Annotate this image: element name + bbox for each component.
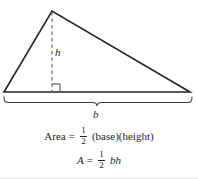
formula-symbolic-fraction-denominator: 2 [98, 161, 105, 170]
formula-area-equals: = [66, 131, 78, 142]
formula-area-symbolic: A = 1 2 bh [0, 150, 198, 170]
formula-area-fraction: 1 2 [80, 126, 87, 146]
formula-area-fraction-numerator: 1 [80, 126, 87, 135]
formula-symbolic-fraction: 1 2 [98, 150, 105, 170]
formula-area-fraction-denominator: 2 [80, 137, 87, 146]
base-brace-icon [4, 97, 192, 106]
triangle-area-figure: h b Area = 1 2 (base)(height) A = 1 2 bh [0, 0, 198, 179]
right-angle-marker-icon [52, 84, 60, 92]
formula-symbolic-equals: = [84, 155, 96, 166]
triangle-outline [4, 11, 190, 92]
formula-area-lhs: Area [44, 131, 65, 142]
formula-area-word-row: Area = 1 2 (base)(height) [44, 126, 153, 146]
formula-area-symbolic-row: A = 1 2 bh [77, 150, 121, 170]
triangle-path [4, 11, 190, 92]
base-label: b [93, 109, 99, 120]
formula-symbolic-rhs: bh [110, 155, 121, 166]
formula-symbolic-lhs: A [77, 155, 84, 166]
formula-symbolic-fraction-numerator: 1 [98, 150, 105, 159]
height-label: h [55, 47, 61, 58]
formula-area-rhs: (base)(height) [92, 131, 154, 142]
formula-area-word: Area = 1 2 (base)(height) [0, 126, 198, 146]
